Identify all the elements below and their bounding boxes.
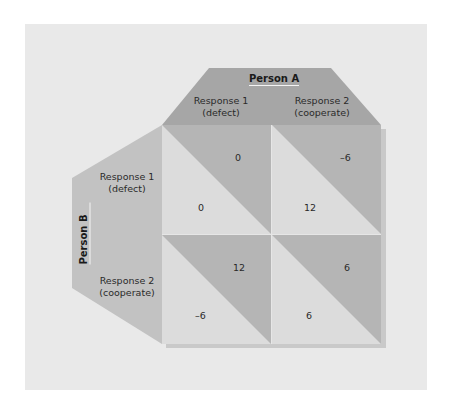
person-b-response-1-label: Response 1 (defect)	[96, 171, 158, 195]
person-a-response-1-name: Response 1	[188, 95, 254, 107]
person-b-response-2-type: (cooperate)	[94, 287, 160, 299]
grid-shadow-right	[381, 129, 386, 348]
person-a-response-2-name: Response 2	[287, 95, 357, 107]
person-b-response-1-type: (defect)	[96, 183, 158, 195]
person-b-title: Person B	[78, 203, 91, 265]
person-b-response-2-label: Response 2 (cooperate)	[94, 275, 160, 299]
payoff-a-r2-c2: 6	[344, 262, 350, 273]
person-a-response-1-label: Response 1 (defect)	[188, 95, 254, 119]
grid-shadow-bottom	[166, 344, 386, 348]
person-a-title: Person A	[249, 73, 299, 86]
person-a-response-2-type: (cooperate)	[287, 107, 357, 119]
payoff-b-r2-c2: 6	[306, 310, 312, 321]
payoff-a-r2-c1: 12	[233, 262, 245, 273]
payoff-b-r1-c2: 12	[304, 202, 316, 213]
payoff-a-r1-c2: –6	[340, 152, 351, 163]
person-a-response-1-type: (defect)	[188, 107, 254, 119]
person-b-response-1-name: Response 1	[96, 171, 158, 183]
payoff-b-r1-c1: 0	[198, 202, 204, 213]
cell-divider-horizontal	[162, 234, 381, 235]
person-a-response-2-label: Response 2 (cooperate)	[287, 95, 357, 119]
payoff-a-r1-c1: 0	[235, 152, 241, 163]
payoff-matrix-diagram	[0, 0, 451, 412]
payoff-b-r2-c1: –6	[195, 310, 206, 321]
person-b-response-2-name: Response 2	[94, 275, 160, 287]
